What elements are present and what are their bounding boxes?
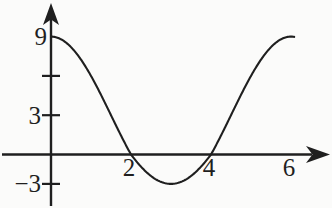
x-tick-label-6: 6 [283,154,296,181]
y-tick-label-9: 9 [35,23,48,50]
y-tick-label-3: 3 [29,102,42,129]
y-tick-label--3: −3 [14,170,41,197]
function-graph-figure: 93−3246 [0,0,332,208]
graph-canvas: 93−3246 [0,0,332,208]
